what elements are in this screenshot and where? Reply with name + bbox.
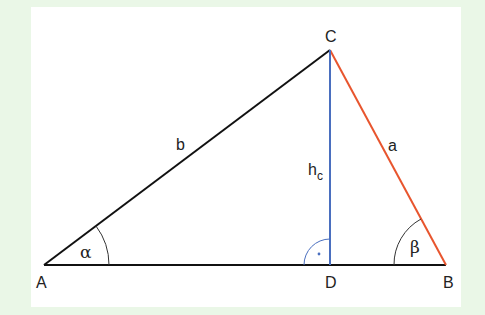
vertex-label-c: C (325, 28, 337, 45)
side-b-line (44, 50, 330, 265)
right-angle-dot (318, 253, 321, 256)
angle-label-beta: β (410, 237, 420, 257)
alpha-arc (96, 226, 109, 265)
vertex-label-a: A (36, 274, 47, 291)
right-angle-arc (304, 239, 330, 265)
triangle-diagram: A B C D b a hc α β (0, 0, 485, 315)
angle-label-alpha: α (80, 242, 92, 262)
altitude-label: hc (308, 161, 323, 183)
side-label-b: b (176, 136, 185, 153)
side-label-a: a (388, 137, 397, 154)
vertex-label-d: D (325, 274, 337, 291)
vertex-label-b: B (443, 274, 454, 291)
side-a-line (330, 50, 446, 265)
